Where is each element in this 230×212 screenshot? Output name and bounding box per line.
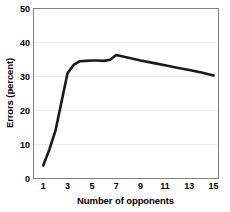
x-axis-title: Number of opponents [33, 195, 218, 206]
chart-figure: 01020304050 13579111315 Errors (percent)… [0, 0, 230, 212]
plot-area [0, 0, 230, 212]
y-axis-title: Errors (percent) [2, 8, 16, 178]
plot-frame [34, 9, 219, 179]
gridlines [35, 9, 218, 145]
